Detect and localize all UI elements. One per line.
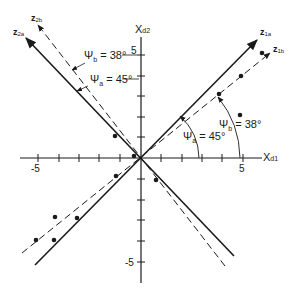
psi-a-upper-label: Ψa = 45°	[90, 74, 132, 87]
y-tick-neg5: -5	[125, 258, 134, 268]
data-points	[34, 51, 265, 243]
x-tick-neg5: -5	[31, 164, 40, 174]
x-tick-pos5: 5	[239, 164, 245, 174]
z2b-label: z2b	[31, 14, 42, 23]
z2b-vector-line	[38, 25, 225, 266]
x-axis-label: Xd1	[263, 152, 278, 163]
z2a-vector-line	[26, 38, 234, 256]
z1b-label: z1b	[273, 45, 284, 54]
diagram-canvas	[0, 0, 297, 298]
psi-a-right-label: Ψa = 45°	[183, 131, 225, 144]
y-axis-label: Xd2	[135, 24, 150, 35]
y-tick-pos5: 5	[131, 46, 137, 56]
psi-b-upper-label: Ψb = 38°	[84, 50, 126, 63]
z2a-label: z2a	[13, 28, 24, 37]
pca-rotation-diagram: Xd1 Xd2 -5 5 5 -5 z1a z1b z2a z2b Ψb = 3…	[0, 0, 297, 298]
psi-b-right-label: Ψb = 38°	[219, 119, 261, 132]
z1b-vector-line	[22, 53, 270, 253]
z1a-label: z1a	[260, 28, 271, 37]
